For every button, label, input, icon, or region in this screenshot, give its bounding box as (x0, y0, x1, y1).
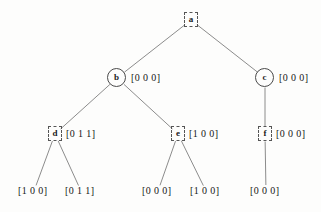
tree-node-b-vector: [0 0 0] (131, 73, 160, 83)
tree-node-d-vector: [0 1 1] (66, 129, 95, 139)
tree-node-e-vector: [1 0 0] (189, 129, 218, 139)
tree-node-f-label: f (264, 129, 267, 138)
tree-edge-b-e (124, 84, 172, 129)
tree-edge-a-b (124, 25, 185, 73)
tree-edges (0, 0, 321, 212)
tree-node-e[interactable]: e (171, 126, 185, 141)
tree-node-e-label: e (176, 129, 180, 138)
tree-node-b[interactable]: b (107, 68, 126, 87)
tree-leaf-2-vector: [0 1 1] (65, 186, 94, 196)
tree-node-c-vector: [0 0 0] (279, 73, 308, 83)
tree-edge-e-leaf3 (160, 141, 176, 185)
tree-edge-a-c (197, 25, 258, 73)
tree-node-c-label: c (263, 73, 267, 82)
tree-node-a-label: a (189, 15, 194, 24)
tree-node-c[interactable]: c (255, 68, 274, 87)
tree-edge-f-leaf5 (265, 142, 266, 186)
tree-edge-e-leaf4 (181, 141, 203, 186)
tree-edge-b-d (61, 84, 110, 129)
tree-node-f[interactable]: f (258, 126, 272, 141)
tree-edge-d-leaf2 (58, 141, 78, 186)
tree-edge-d-leaf1 (36, 141, 52, 185)
tree-diagram: a b [0 0 0] c [0 0 0] d [0 1 1] e [1 0 0… (0, 0, 321, 212)
tree-leaf-4-vector: [1 0 0] (190, 186, 219, 196)
tree-leaf-3-vector: [0 0 0] (142, 186, 171, 196)
tree-node-b-label: b (114, 73, 119, 82)
tree-node-f-vector: [0 0 0] (276, 129, 305, 139)
tree-leaf-5-vector: [0 0 0] (250, 186, 279, 196)
tree-leaf-1-vector: [1 0 0] (18, 186, 47, 196)
tree-node-a[interactable]: a (184, 12, 198, 27)
tree-node-d[interactable]: d (48, 126, 62, 141)
tree-node-d-label: d (52, 129, 57, 138)
